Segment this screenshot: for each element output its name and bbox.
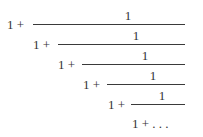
term-prefix-4: 1 + <box>108 98 125 111</box>
numerator-3: 1 <box>148 69 158 82</box>
term-prefix-2: 1 + <box>58 58 75 71</box>
fraction-bar-4 <box>131 104 185 105</box>
numerator-0: 1 <box>123 9 133 22</box>
fraction-bar-1 <box>58 44 185 45</box>
fraction-bar-0 <box>33 24 185 25</box>
numerator-4: 1 <box>157 89 167 102</box>
fraction-bar-2 <box>82 64 185 65</box>
term-prefix-0: 1 + <box>7 18 24 31</box>
term-prefix-3: 1 + <box>83 78 100 91</box>
fraction-bar-3 <box>107 84 185 85</box>
numerator-1: 1 <box>131 29 141 42</box>
ellipsis-tail: 1 + . . . <box>132 117 169 130</box>
numerator-2: 1 <box>140 49 150 62</box>
term-prefix-1: 1 + <box>33 38 50 51</box>
